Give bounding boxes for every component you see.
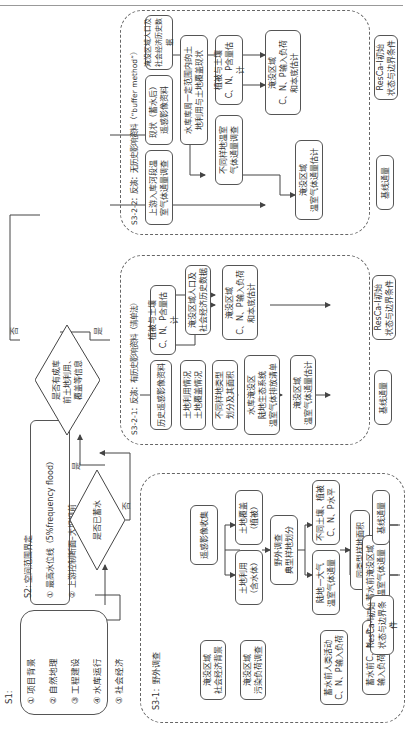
s2-item: ① 最高水位线（5%frequency flood） — [45, 457, 56, 598]
socio-background-box: 淹没区域 社会经济背景 — [200, 640, 226, 700]
output-baseline-flux-box: 基线通量 — [376, 155, 394, 210]
soil-veg-cnp-box: 不同土壤、植被 C、N、P水平 — [312, 480, 340, 545]
human-input-box: 蓄水前人类活动 C、N、P输入负荷 — [320, 630, 348, 705]
s3-2-1-title: S3-2-1：反演：有历史影响资料（清单法） — [128, 299, 139, 436]
s1-item: ① 项目背景 — [26, 658, 37, 704]
socio-hist-box: 淹没区域人口及 社会经济历史数据 — [185, 265, 211, 335]
cnp-est-box: 淹没区域 C、N、P输入负荷 和本底估计 — [265, 30, 301, 115]
s2-title: S2: 空间范围界定 — [23, 457, 34, 598]
buffer-land-box: 水库库周一定范围内的土 地利用与土地覆盖现状 — [180, 35, 208, 145]
s1-item: ② 自然地理 — [48, 658, 59, 704]
output-init-state-box: ResCa-I初始 状态与边界条件 — [374, 35, 398, 100]
rs-collect-box: 遥感影像收集 — [190, 505, 218, 565]
decision-history-data: 是否有成库 前土地利用、 覆盖等信息 — [35, 325, 100, 435]
sample-type-box: 不同样地类型 划分及其面积 — [212, 360, 238, 430]
decision-impounded: 是否已蓄水 — [70, 470, 125, 570]
output-init-state-box: ResCa-I初始 状态与边界条件 — [370, 595, 394, 655]
ghg-flux-box: 陆地—大气 温室气体通量 — [312, 550, 340, 615]
landuse-cover-box: 土地利用情况 土地覆盖情况 — [180, 360, 206, 430]
ghg-est-box: 淹没区域 温室气体通量估计 — [290, 355, 316, 430]
decision-impounded-text: 是否已蓄水 — [70, 470, 125, 570]
cnp-est-box: 淹没区域 C、N、P输入负荷 和本底估计 — [222, 265, 258, 340]
veg-soil-box: 植被与土壤 C、N、P含量估计 — [150, 285, 176, 355]
decision-impounded-no-label: 否 — [120, 502, 131, 510]
sample-ghg-box: 不同样地温室 气体通量调查 — [215, 115, 243, 185]
decision-history-no-label: 否 — [8, 327, 19, 335]
s1-title: S1: — [4, 658, 15, 704]
ghg-est-box: 淹没区域 温室气体通量估计 — [295, 140, 323, 220]
field-survey-box: 野外调查 典型样地划分 — [270, 515, 298, 585]
s1-item: ⑤ 社会经济 — [114, 658, 125, 704]
output-baseline-flux-box: 基线通量 — [372, 490, 390, 545]
landuse-box: 土地利用 （含水体） — [235, 550, 263, 605]
output-init-state-box: ResCa-I初始 状态与边界条件 — [372, 275, 396, 340]
s1-item: ③ 工程建设 — [70, 658, 81, 704]
current-rs-box: 现状（蓄水后） 遥感影像资料 — [145, 75, 173, 145]
decision-history-yes-label: 是 — [92, 327, 103, 335]
hist-rs-box: 历史遥感影像资料 — [150, 360, 172, 430]
landcover-box: 土地覆盖 （植被） — [235, 490, 263, 545]
decision-history-data-text: 是否有成库 前土地利用、 覆盖等信息 — [35, 325, 100, 435]
decision-impounded-yes-label: 是 — [70, 462, 81, 470]
s1-project-info-box: S1: ① 项目背景 ② 自然地理 ③ 工程建设 ④ 水库运行 ⑤ 社会经济 — [20, 610, 108, 715]
veg-soil-box: 植被与土壤 C、N、P含量估计 — [215, 35, 243, 105]
inventory-box: 水库淹没区 陆地生态系统 温室气体排放清单 — [244, 355, 280, 435]
s3-2-2-title: S3-2-2：反演：无历史影响资料（“buffer method”） — [128, 48, 139, 225]
s3-1-title: S3-1：野外调查 — [150, 652, 161, 710]
socio-hist-box: 淹没区域人口及 社会经济历史数据 — [145, 15, 173, 70]
pollution-survey-box: 淹没区域 污染负荷调查 — [240, 640, 266, 700]
output-baseline-flux-box: 基线通量 — [374, 370, 392, 425]
s1-item: ④ 水库运行 — [92, 658, 103, 704]
s2-spatial-scope-box: S2: 空间范围界定 ① 最高水位线（5%frequency flood） ② … — [30, 420, 70, 605]
upstream-ghg-box: 上游入库河段温 室气体通量调查 — [145, 150, 173, 225]
